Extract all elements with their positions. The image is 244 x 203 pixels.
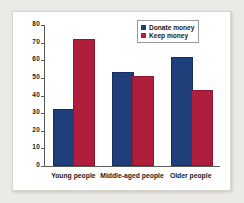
plot-area: 01020304050607080 Young peopleMiddle-age… xyxy=(44,25,220,166)
legend-label: Keep money xyxy=(149,32,188,39)
y-tick-mark xyxy=(41,60,44,61)
y-tick-mark xyxy=(41,166,44,167)
y-tick-label: 40 xyxy=(32,91,40,98)
bar-group xyxy=(112,25,152,166)
y-tick-mark xyxy=(41,131,44,132)
legend-item: Donate money xyxy=(141,24,194,31)
chart-legend: Donate moneyKeep money xyxy=(137,20,199,43)
y-tick-mark xyxy=(41,78,44,79)
legend-swatch xyxy=(141,33,146,38)
y-tick-mark xyxy=(41,25,44,26)
y-tick-label: 80 xyxy=(32,20,40,27)
y-tick-mark xyxy=(41,96,44,97)
y-tick-mark xyxy=(41,148,44,149)
y-tick-label: 0 xyxy=(36,161,40,168)
bar-group xyxy=(53,25,93,166)
y-tick-mark xyxy=(41,43,44,44)
chart-card: 01020304050607080 Young peopleMiddle-age… xyxy=(12,11,231,191)
y-axis-line xyxy=(44,25,45,166)
y-tick-mark xyxy=(41,113,44,114)
legend-item: Keep money xyxy=(141,32,194,39)
bar xyxy=(112,72,134,166)
y-tick-label: 70 xyxy=(32,38,40,45)
x-axis-category-label: Older people xyxy=(148,171,234,180)
bar xyxy=(132,76,154,166)
legend-label: Donate money xyxy=(149,24,194,31)
legend-swatch xyxy=(141,25,146,30)
bar xyxy=(191,90,213,166)
y-tick-label: 50 xyxy=(32,73,40,80)
y-tick-label: 30 xyxy=(32,108,40,115)
bar-group xyxy=(171,25,211,166)
x-axis-line xyxy=(44,166,220,167)
y-tick-label: 20 xyxy=(32,126,40,133)
bar xyxy=(73,39,95,166)
y-tick-label: 10 xyxy=(32,143,40,150)
y-tick-label: 60 xyxy=(32,55,40,62)
bar xyxy=(171,57,193,167)
bar xyxy=(53,109,75,166)
